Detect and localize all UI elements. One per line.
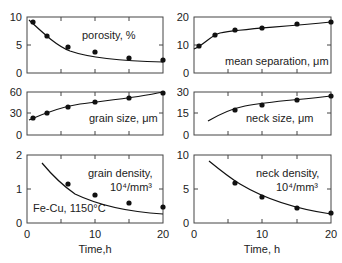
- fit-curve: [29, 20, 163, 62]
- x-axis-title: Time, h: [244, 243, 280, 255]
- y-tick-label: 10: [177, 149, 189, 161]
- panel-neck-size: 30 15 0 neck size, μm: [177, 86, 334, 141]
- panel-title: neck size, μm: [246, 112, 313, 124]
- x-tick-label: 0: [24, 228, 30, 240]
- y-tick-label: 2: [16, 149, 22, 161]
- annotation: Fe-Cu, 1150°C: [33, 202, 106, 214]
- plot-frame: [27, 17, 163, 73]
- y-tick-label: 30: [10, 107, 22, 119]
- y-tick-label: 5: [183, 183, 189, 195]
- panel-title-units: 10⁴/mm³: [110, 181, 152, 193]
- panel-neck-density: 10 5 0 0 10 20 Time, h neck density, 10⁴…: [177, 149, 337, 255]
- y-tick-label: 1: [16, 183, 22, 195]
- x-tick-label: 20: [157, 228, 169, 240]
- panel-title-units: 10⁴/mm³: [276, 181, 318, 193]
- x-axis-title: Time,h: [78, 243, 111, 255]
- y-tick-label: 0: [16, 217, 22, 229]
- y-tick-label: 10: [177, 39, 189, 51]
- x-tick-label: 10: [256, 228, 268, 240]
- panel-title: grain density,: [88, 167, 153, 179]
- y-tick-label: 0: [16, 129, 22, 141]
- panel-grain-density: 2 1 0 0 10 20 Time,h grain density, 10⁴/…: [16, 149, 169, 255]
- y-tick-label: 0: [16, 67, 22, 79]
- y-tick-label: 0: [183, 217, 189, 229]
- panel-title: neck density,: [256, 167, 319, 179]
- panel-grain-size: 60 30 0 grain size, μm: [10, 86, 166, 141]
- x-tick-label: 20: [325, 228, 337, 240]
- y-tick-label: 5: [16, 39, 22, 51]
- panel-title: porosity, %: [82, 29, 136, 41]
- y-tick-label: 20: [177, 11, 189, 23]
- panel-title: mean separation, μm: [225, 55, 329, 67]
- panel-porosity: 10 5 0 porosity, %: [10, 11, 166, 79]
- y-tick-label: 0: [183, 129, 189, 141]
- panel-title: grain size, μm: [89, 112, 158, 124]
- y-tick-label: 10: [10, 11, 22, 23]
- x-tick-label: 0: [191, 228, 197, 240]
- y-tick-label: 30: [177, 86, 189, 98]
- y-tick-label: 0: [183, 67, 189, 79]
- panel-mean-separation: 20 10 0 mean separation, μm: [177, 11, 334, 79]
- y-tick-label: 15: [177, 107, 189, 119]
- x-tick-label: 10: [89, 228, 101, 240]
- chart-figure: 10 5 0 porosity, % 20 10 0 mean separati…: [0, 0, 342, 263]
- y-tick-label: 60: [10, 86, 22, 98]
